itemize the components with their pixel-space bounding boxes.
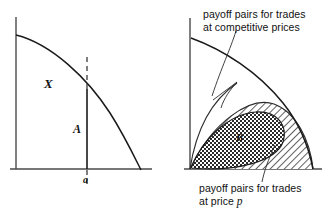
left-allocation-label: A: [72, 122, 81, 136]
top-annotation-line1: payoff pairs for trades: [203, 8, 306, 20]
bottom-annotation-price-symbol: p: [236, 195, 243, 208]
left-frontier-curve: [16, 35, 141, 170]
bottom-annotation-line1: payoff pairs for trades: [199, 182, 302, 194]
left-region-label: X: [43, 76, 53, 91]
left-panel: X A a: [10, 17, 152, 186]
diagram-svg: X A a: [0, 0, 334, 215]
right-panel: B payoff pairs for trades at competitive…: [184, 8, 325, 208]
bottom-annotation-line2: at price p: [199, 195, 243, 208]
top-annotation-leader-arm: [213, 82, 237, 100]
figure-root: X A a: [0, 0, 334, 215]
left-point-label: a: [83, 174, 88, 185]
top-annotation-line2: at competitive prices: [203, 21, 300, 33]
lens-region-label: B: [235, 132, 243, 143]
bottom-annotation-prefix: at price: [199, 195, 237, 207]
